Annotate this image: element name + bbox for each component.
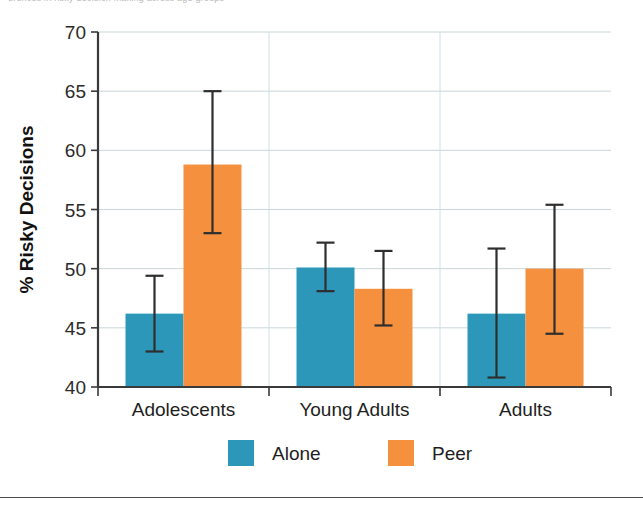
y-axis-title: % Risky Decisions — [16, 126, 37, 294]
footer-divider — [0, 497, 643, 498]
x-tick-label-young-adults: Young Adults — [299, 399, 409, 420]
legend-swatch-peer — [388, 440, 414, 466]
x-tick-label-adolescents: Adolescents — [132, 399, 236, 420]
chart-plot-area: 40455055606570AdolescentsYoung AdultsAdu… — [0, 0, 643, 512]
y-tick-label: 70 — [65, 22, 86, 43]
legend-swatch-alone — [228, 440, 254, 466]
x-tick-label-adults: Adults — [499, 399, 552, 420]
legend-label-alone: Alone — [272, 443, 321, 464]
bar-chart-figure: erences in risky decision making across … — [0, 0, 643, 512]
legend-label-peer: Peer — [432, 443, 473, 464]
y-tick-label: 60 — [65, 140, 86, 161]
y-tick-label: 40 — [65, 377, 86, 398]
y-tick-label: 55 — [65, 200, 86, 221]
y-tick-label: 65 — [65, 81, 86, 102]
y-tick-label: 50 — [65, 259, 86, 280]
y-tick-label: 45 — [65, 318, 86, 339]
